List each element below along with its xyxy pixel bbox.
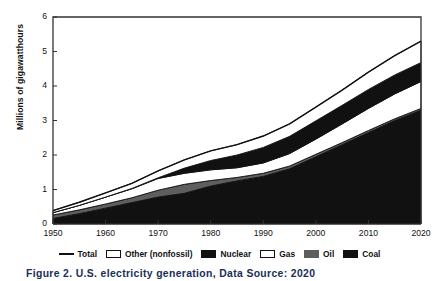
figure-container: Millions of gigawatthours 0123456 195019…: [0, 0, 439, 281]
legend-swatch: [343, 250, 358, 258]
y-tick-label: 1: [25, 184, 47, 194]
chart-legend: TotalOther (nonfossil)NuclearGasOilCoal: [0, 246, 439, 262]
x-tick-label: 1990: [243, 228, 283, 238]
y-tick-label: 4: [25, 80, 47, 90]
y-tick-label: 6: [25, 11, 47, 21]
legend-label: Coal: [362, 249, 380, 259]
legend-label: Gas: [279, 249, 295, 259]
x-tick-label: 1980: [191, 228, 231, 238]
legend-swatch: [201, 250, 216, 258]
legend-label: Total: [78, 249, 97, 259]
legend-line-marker: [59, 250, 74, 258]
x-tick-label: 2010: [348, 228, 388, 238]
legend-item-coal[interactable]: Coal: [343, 249, 380, 259]
legend-item-oil[interactable]: Oil: [304, 249, 334, 259]
y-tick-label: 0: [25, 218, 47, 228]
legend-swatch: [260, 250, 275, 258]
legend-item-gas[interactable]: Gas: [260, 249, 295, 259]
legend-item-nuclear[interactable]: Nuclear: [201, 249, 251, 259]
x-tick-label: 1970: [138, 228, 178, 238]
y-tick-label: 3: [25, 115, 47, 125]
stacked-area-chart: [0, 0, 439, 240]
legend-label: Other (nonfossil): [125, 249, 192, 259]
legend-label: Nuclear: [220, 249, 251, 259]
x-tick-label: 2000: [296, 228, 336, 238]
legend-item-total[interactable]: Total: [59, 249, 97, 259]
legend-swatch: [106, 250, 121, 258]
legend-label: Oil: [323, 249, 334, 259]
x-tick-label: 2020: [401, 228, 439, 238]
figure-caption: Figure 2. U.S. electricity generation, D…: [26, 268, 436, 279]
y-tick-label: 2: [25, 149, 47, 159]
x-tick-label: 1960: [86, 228, 126, 238]
y-tick-label: 5: [25, 46, 47, 56]
legend-item-other-nonfossil[interactable]: Other (nonfossil): [106, 249, 192, 259]
legend-swatch: [304, 250, 319, 258]
x-tick-label: 1950: [33, 228, 73, 238]
